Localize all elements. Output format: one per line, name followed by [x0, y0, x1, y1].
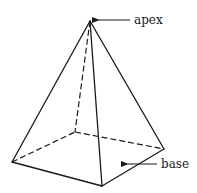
- hidden-edge-back-right: [75, 132, 164, 149]
- edge-apex-front: [90, 21, 102, 186]
- edge-left-front: [12, 162, 102, 186]
- edge-apex-left: [12, 21, 90, 162]
- hidden-edge-apex-back: [75, 21, 90, 132]
- base-annotation: base: [128, 157, 189, 171]
- apex-annotation: apex: [99, 13, 163, 27]
- visible-edges: [12, 21, 164, 186]
- edge-front-right: [102, 149, 164, 186]
- hidden-edges: [12, 21, 164, 162]
- apex-label: apex: [134, 13, 163, 27]
- edge-apex-right: [90, 21, 164, 149]
- base-label: base: [161, 157, 189, 171]
- hidden-edge-left-back: [12, 132, 75, 162]
- pyramid-diagram: apex base: [0, 0, 197, 193]
